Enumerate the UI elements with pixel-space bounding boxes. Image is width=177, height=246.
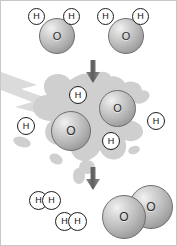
hydrogen-atom-label: H <box>48 196 55 205</box>
oxygen-atom-label: O <box>146 201 155 213</box>
oxygen-atom: O <box>102 195 146 239</box>
hydrogen-atom-label: H <box>35 196 42 205</box>
hydrogen-atom: H <box>42 191 61 210</box>
hydrogen-atom-label: H <box>61 217 68 226</box>
oxygen-atom-label: O <box>119 211 128 223</box>
hydrogen-atom-label: H <box>74 217 81 226</box>
stage-products: H H H H O O <box>1 1 177 246</box>
hydrogen-atom: H <box>68 212 87 231</box>
molecule-dissociation-diagram: O H H O H H O O <box>0 0 177 246</box>
